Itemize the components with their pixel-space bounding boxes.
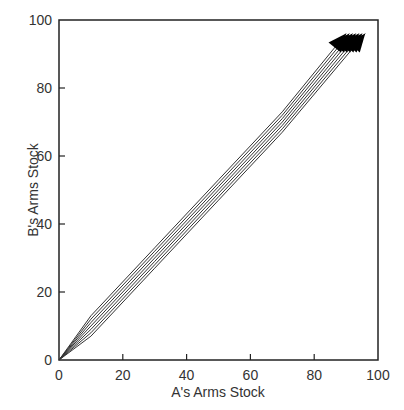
y-tick-label: 100 [29, 12, 53, 28]
y-tick-label: 20 [36, 284, 52, 300]
y-tick-label: 80 [36, 80, 52, 96]
x-tick-label: 100 [366, 367, 390, 383]
trajectory-line [59, 34, 356, 360]
arrowhead-icons [329, 34, 366, 53]
y-axis-label: B's Arms Stock [25, 142, 41, 237]
trajectory-lines [59, 34, 365, 360]
y-tick-label: 0 [44, 352, 52, 368]
x-tick-label: 40 [179, 367, 195, 383]
arms-race-chart: 020406080100020406080100 A's Arms Stock … [0, 0, 404, 410]
x-tick-label: 60 [243, 367, 259, 383]
x-axis-label: A's Arms Stock [171, 384, 266, 400]
x-tick-label: 20 [115, 367, 131, 383]
x-tick-label: 0 [55, 367, 63, 383]
x-tick-label: 80 [306, 367, 322, 383]
